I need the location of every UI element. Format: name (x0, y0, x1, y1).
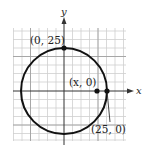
diagram-canvas: y x (0, 25) (x, 0) (25, 0) (0, 0, 146, 151)
point-25-0 (104, 88, 109, 93)
label-point-0-25: (0, 25) (30, 34, 65, 46)
x-axis-label: x (136, 85, 142, 96)
point-x-0 (94, 88, 99, 93)
x-axis-arrow-icon (127, 89, 134, 94)
label-point-25-0: (25, 0) (91, 123, 126, 135)
y-axis-label: y (60, 6, 67, 17)
y-axis-arrow-icon (62, 17, 67, 24)
x-axis (13, 89, 134, 94)
label-point-x-0: (x, 0) (69, 76, 96, 88)
leader-line-25-0 (107, 91, 110, 122)
point-0-25 (61, 45, 66, 50)
